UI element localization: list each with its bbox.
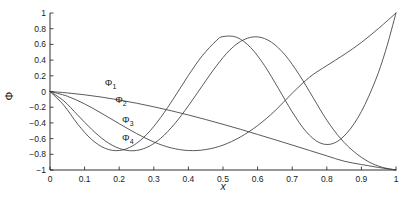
y-tick-label: −0.2 (8, 103, 46, 112)
curve-label-phi-4: Φ4 (122, 133, 134, 145)
x-tick-label: 0.3 (148, 175, 160, 184)
curve-2 (50, 13, 396, 151)
y-tick-label: 0 (8, 87, 46, 96)
curve-label-symbol: Φ (122, 114, 130, 125)
curve-label-subscript: 3 (130, 120, 134, 127)
data-curves (50, 13, 396, 170)
curve-label-phi-2: Φ2 (115, 95, 127, 107)
x-tick-label: 0.8 (321, 175, 333, 184)
x-tick-label: 1 (394, 175, 399, 184)
curve-4 (50, 13, 396, 151)
y-tick-label: 0.4 (8, 56, 46, 65)
x-tick-label: 0.4 (182, 175, 194, 184)
curve-label-phi-1: Φ1 (105, 78, 117, 90)
curve-label-subscript: 2 (123, 100, 127, 107)
curve-3 (50, 37, 396, 170)
y-tick-label: −0.6 (8, 134, 46, 143)
curve-label-symbol: Φ (122, 132, 130, 143)
curve-label-symbol: Φ (115, 94, 123, 105)
y-tick-label: −1 (8, 166, 46, 175)
x-tick-label: 0.5 (217, 175, 229, 184)
x-tick-label: 0 (48, 175, 53, 184)
curve-1 (50, 92, 396, 171)
curve-label-symbol: Φ (105, 77, 113, 88)
x-tick-label: 0.1 (79, 175, 91, 184)
x-tick-label: 0.6 (252, 175, 264, 184)
y-tick-label: 0.2 (8, 72, 46, 81)
plot-canvas (0, 0, 417, 203)
y-tick-label: 0.8 (8, 24, 46, 33)
y-tick-label: 0.6 (8, 40, 46, 49)
curve-label-phi-3: Φ3 (122, 115, 134, 127)
curve-label-subscript: 4 (130, 138, 134, 145)
x-tick-label: 0.2 (113, 175, 125, 184)
curve-label-subscript: 1 (112, 83, 116, 90)
y-tick-label: −0.8 (8, 150, 46, 159)
y-tick-label: 1 (8, 9, 46, 18)
figure-container: Φ x 10.80.60.40.20−0.2−0.4−0.6−0.8−1 00.… (0, 0, 417, 203)
x-tick-label: 0.7 (286, 175, 298, 184)
y-tick-label: −0.4 (8, 119, 46, 128)
x-tick-label: 0.9 (355, 175, 367, 184)
